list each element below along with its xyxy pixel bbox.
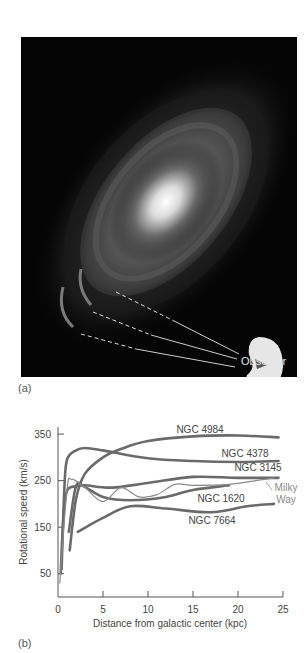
galaxy-illustration	[21, 37, 297, 377]
x-tick-label: 10	[142, 604, 154, 615]
series-label: NGC 1620	[197, 493, 245, 504]
y-tick-label: 250	[34, 475, 51, 486]
y-tick-label: 350	[34, 429, 51, 440]
x-tick-label: 5	[100, 604, 106, 615]
x-axis-label: Distance from galactic center (kpc)	[93, 618, 247, 629]
y-axis-label: Rotational speed (km/s)	[18, 459, 29, 565]
x-tick-label: 25	[277, 604, 289, 615]
series-label: NGC 4378	[221, 448, 269, 459]
observer-label: Observer	[241, 355, 286, 367]
series-label: NGC 7664	[188, 515, 236, 526]
curve-ngc-7664	[78, 504, 274, 532]
series-label-milky-way: Milky	[275, 482, 298, 493]
x-tick-label: 20	[232, 604, 244, 615]
series-label-milky-way: Way	[276, 494, 296, 505]
series-label: NGC 4984	[176, 424, 224, 435]
y-tick-label: 150	[34, 522, 51, 533]
series-label: NGC 3145	[234, 462, 282, 473]
rotation-curve-chart: 051015202550150250350Distance from galac…	[0, 380, 308, 653]
x-tick-label: 0	[55, 604, 61, 615]
galaxy-photo	[21, 37, 297, 377]
x-tick-label: 15	[187, 604, 199, 615]
panel-b-label: (b)	[18, 637, 31, 649]
y-tick-label: 50	[40, 568, 52, 579]
